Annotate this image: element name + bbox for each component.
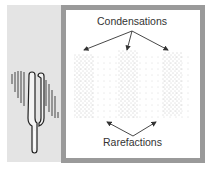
condensation-arrows xyxy=(84,31,168,50)
condensations-label: Condensations xyxy=(97,15,167,27)
rarefaction-arrows xyxy=(107,122,156,136)
condensation-band-2 xyxy=(118,50,138,118)
rarefactions-label: Rarefactions xyxy=(103,136,162,148)
condensation-band-3 xyxy=(162,52,182,116)
condensation-band-1 xyxy=(74,54,94,118)
tuning-fork-icon xyxy=(28,72,44,153)
